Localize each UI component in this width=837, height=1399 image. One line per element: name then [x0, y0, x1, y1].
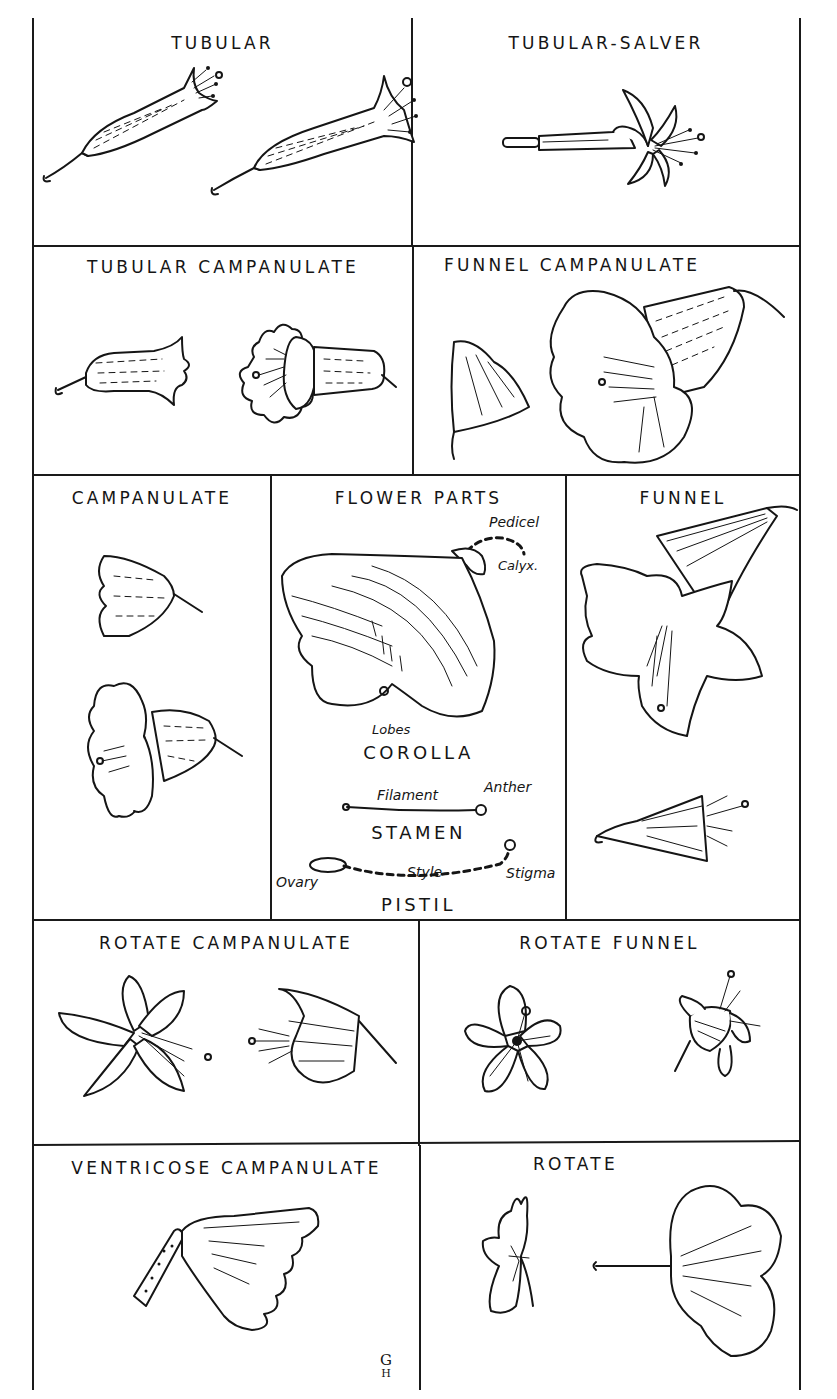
artist-monogram: G H — [380, 1353, 392, 1381]
cell-rotate-campanulate: ROTATE CAMPANULATE — [34, 921, 418, 1144]
cell-tubular-campanulate: TUBULAR CAMPANULATE — [34, 247, 412, 474]
rotate-funnel-flower-icon — [420, 921, 799, 1144]
cell-tubular: TUBULAR — [34, 18, 411, 245]
grid-right-border — [799, 18, 801, 1390]
cell-tubular-salver: TUBULAR-SALVER — [413, 18, 799, 245]
ventricose-campanulate-flower-icon — [34, 1146, 419, 1390]
campanulate-flower-icon — [34, 476, 270, 919]
cell-rotate: ROTATE — [421, 1146, 799, 1390]
tubular-flower-icon — [34, 18, 411, 245]
cell-rotate-funnel: ROTATE FUNNEL — [420, 921, 799, 1144]
label-style: Style — [407, 864, 442, 880]
tubular-campanulate-flower-icon — [34, 247, 412, 474]
funnel-flower-icon — [567, 476, 799, 919]
cell-campanulate: CAMPANULATE — [34, 476, 270, 919]
funnel-campanulate-flower-icon — [414, 247, 799, 474]
label-pistil: PISTIL — [272, 894, 565, 915]
tubular-salver-flower-icon — [413, 18, 799, 245]
label-ovary: Ovary — [276, 874, 318, 890]
cell-flower-parts: FLOWER PARTS Pedicel Calyx. Lobes COROLL… — [272, 476, 565, 919]
rotate-flower-icon — [421, 1146, 799, 1390]
rotate-campanulate-flower-icon — [34, 921, 418, 1144]
monogram-bottom: H — [380, 1367, 392, 1381]
pistil-icon — [272, 476, 565, 919]
label-stigma: Stigma — [506, 865, 555, 881]
cell-funnel: FUNNEL — [567, 476, 799, 919]
cell-ventricose-campanulate: VENTRICOSE CAMPANULATE G H — [34, 1146, 419, 1390]
monogram-top: G — [380, 1353, 392, 1367]
cell-funnel-campanulate: FUNNEL CAMPANULATE — [414, 247, 799, 474]
